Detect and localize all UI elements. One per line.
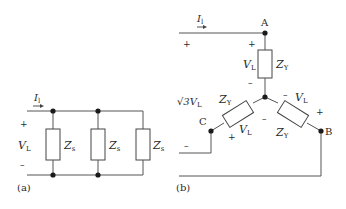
voltage-label: VL [239, 123, 252, 137]
voltage-label: VL [295, 91, 308, 105]
current-label: Il [196, 13, 204, 26]
node-dot [50, 172, 55, 177]
node-dot [50, 108, 55, 113]
minus-sign: – [184, 141, 189, 151]
impedance-label: Zs [152, 139, 165, 153]
neutral-node-dot [262, 94, 267, 99]
impedance-zy-a [258, 50, 272, 78]
impedance-label: ZY [275, 126, 289, 140]
panel-label-a: (a) [17, 182, 31, 193]
node-dot [95, 172, 100, 177]
node-a-dot [262, 30, 267, 35]
current-label: Il [33, 92, 41, 105]
parallel-circuit-a: Il + VL – Zs Zs Zs (a) [17, 92, 165, 193]
impedance-zs-2 [91, 129, 105, 160]
minus-sign: – [283, 90, 288, 100]
plus-sign: + [228, 132, 236, 142]
plus-sign: + [183, 39, 191, 49]
node-b-dot [318, 128, 323, 133]
minus-sign: – [248, 78, 253, 88]
voltage-label: VL [243, 58, 256, 72]
plus-sign: + [248, 39, 256, 49]
line-voltage-label: √3VL [177, 96, 202, 109]
node-b-label: B [325, 126, 332, 137]
impedance-label: Zs [63, 139, 76, 153]
minus-sign: – [262, 114, 267, 124]
node-c-dot [208, 128, 213, 133]
impedance-label: ZY [218, 93, 232, 107]
panel-label-b: (b) [176, 182, 190, 193]
node-a-label: A [260, 17, 269, 28]
plus-sign: + [20, 119, 28, 129]
circuit-diagrams: Il + VL – Zs Zs Zs (a) A [0, 0, 346, 209]
plus-sign: + [316, 107, 324, 117]
minus-sign: – [20, 160, 25, 170]
voltage-label: VL [18, 139, 31, 153]
wye-circuit-b: A B C Il + √3VL – + VL – ZY ZY VL + – – … [176, 13, 332, 193]
node-dot [95, 108, 100, 113]
impedance-zs-3 [136, 129, 150, 160]
impedance-label: ZY [275, 58, 289, 72]
impedance-label: Zs [108, 139, 121, 153]
node-c-label: C [199, 116, 207, 127]
impedance-zs-1 [46, 129, 60, 160]
